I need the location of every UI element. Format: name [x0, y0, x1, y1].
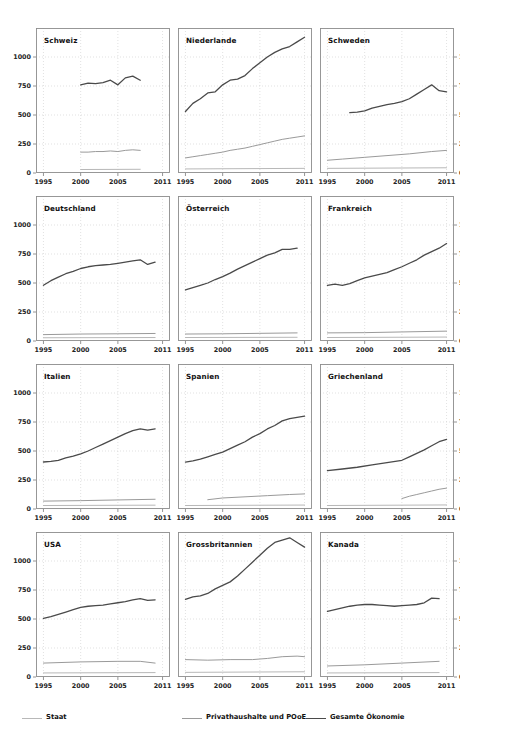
x-tick-label: 2000	[214, 514, 232, 522]
panel-title: Spanien	[186, 372, 219, 381]
plot-frame	[321, 197, 454, 341]
x-tick-label: 2005	[109, 346, 127, 354]
plot-frame	[321, 533, 454, 677]
data-series-line	[327, 439, 446, 470]
panel-plot: 199520002005201102505007501000	[282, 28, 460, 193]
data-series-line	[327, 150, 446, 160]
x-tick-label: 2005	[393, 514, 411, 522]
y-tick-label: 500	[459, 279, 460, 287]
panel-title: Schweden	[328, 36, 370, 45]
x-tick-label: 2000	[214, 178, 232, 186]
x-tick-label: 1995	[35, 682, 53, 690]
y-tick-label: 0	[27, 673, 32, 681]
y-tick-label: 250	[459, 308, 460, 316]
x-tick-label: 1995	[319, 346, 337, 354]
y-tick-label: 0	[459, 673, 460, 681]
y-tick-label: 750	[459, 250, 460, 258]
legend-swatch	[306, 718, 326, 719]
x-tick-label: 1995	[177, 346, 195, 354]
x-tick-label: 2005	[109, 514, 127, 522]
chart-panel: 199520002005201102505007501000Schweden	[320, 28, 454, 173]
x-tick-label: 2011	[438, 346, 456, 354]
data-series-line	[350, 85, 447, 113]
y-tick-label: 1000	[13, 53, 31, 61]
panel-plot: 199520002005201102505007501000	[282, 532, 460, 697]
y-tick-label: 500	[18, 447, 32, 455]
data-series-line	[402, 488, 447, 498]
y-tick-label: 0	[459, 337, 460, 345]
y-tick-label: 1000	[459, 557, 460, 565]
x-tick-label: 1995	[177, 178, 195, 186]
y-tick-label: 1000	[459, 53, 460, 61]
legend-label: Staat	[46, 713, 67, 721]
legend-label: Gesamte Ökonomie	[330, 713, 404, 721]
x-tick-label: 2005	[393, 682, 411, 690]
x-tick-label: 2011	[438, 178, 456, 186]
data-series-line	[185, 248, 297, 290]
chart-panel: 199520002005201102505007501000Griechenla…	[320, 364, 454, 509]
y-tick-label: 250	[459, 140, 460, 148]
data-series-line	[43, 429, 155, 462]
x-tick-label: 2000	[72, 178, 90, 186]
legend-swatch	[22, 718, 42, 719]
panel-title: Kanada	[328, 540, 359, 549]
data-series-line	[43, 499, 155, 501]
x-tick-label: 2011	[438, 514, 456, 522]
y-tick-label: 250	[18, 644, 32, 652]
x-tick-label: 2005	[251, 346, 269, 354]
y-tick-label: 1000	[13, 557, 31, 565]
x-tick-label: 2000	[356, 514, 374, 522]
data-series-line	[327, 505, 446, 506]
y-tick-label: 1000	[13, 389, 31, 397]
x-tick-label: 2000	[72, 346, 90, 354]
data-series-line	[327, 598, 439, 611]
y-tick-label: 750	[18, 250, 32, 258]
y-tick-label: 250	[459, 644, 460, 652]
y-tick-label: 750	[18, 586, 32, 594]
y-tick-label: 750	[459, 82, 460, 90]
y-tick-label: 500	[459, 447, 460, 455]
x-tick-label: 1995	[319, 514, 337, 522]
x-tick-label: 2005	[109, 178, 127, 186]
y-tick-label: 750	[459, 418, 460, 426]
legend-swatch	[182, 718, 202, 719]
x-tick-label: 2000	[356, 178, 374, 186]
plot-frame	[321, 365, 454, 509]
panel-plot: 199520002005201102505007501000	[282, 364, 460, 529]
x-tick-label: 2005	[393, 346, 411, 354]
y-tick-label: 500	[459, 615, 460, 623]
y-tick-label: 0	[459, 505, 460, 513]
x-tick-label: 2000	[72, 514, 90, 522]
y-tick-label: 1000	[13, 221, 31, 229]
y-tick-label: 750	[18, 418, 32, 426]
chart-legend: StaatPrivathaushalte und POoEGesamte Öko…	[0, 706, 514, 736]
x-tick-label: 2000	[356, 346, 374, 354]
panel-title: Italien	[44, 372, 71, 381]
x-tick-label: 2005	[251, 178, 269, 186]
x-tick-label: 2005	[393, 178, 411, 186]
y-tick-label: 250	[459, 476, 460, 484]
x-tick-label: 1995	[35, 178, 53, 186]
panel-title: Österreich	[186, 204, 230, 213]
y-tick-label: 250	[18, 140, 32, 148]
panel-title: Frankreich	[328, 204, 372, 213]
data-series-line	[81, 150, 141, 152]
panel-plot: 199520002005201102505007501000	[282, 196, 460, 361]
y-tick-label: 1000	[459, 389, 460, 397]
x-tick-label: 2000	[356, 682, 374, 690]
x-tick-label: 1995	[177, 682, 195, 690]
chart-page: 199520002005201102505007501000Schweiz199…	[0, 0, 514, 750]
y-tick-label: 750	[459, 586, 460, 594]
x-tick-label: 1995	[177, 514, 195, 522]
x-tick-label: 1995	[319, 682, 337, 690]
chart-panel: 199520002005201102505007501000Frankreich	[320, 196, 454, 341]
chart-panel: 199520002005201102505007501000Kanada	[320, 532, 454, 677]
x-tick-label: 2000	[72, 682, 90, 690]
x-tick-label: 2000	[214, 346, 232, 354]
y-tick-label: 750	[18, 82, 32, 90]
x-tick-label: 2005	[251, 514, 269, 522]
y-tick-label: 0	[459, 169, 460, 177]
y-tick-label: 500	[18, 111, 32, 119]
y-tick-label: 500	[18, 279, 32, 287]
data-series-line	[327, 244, 446, 286]
